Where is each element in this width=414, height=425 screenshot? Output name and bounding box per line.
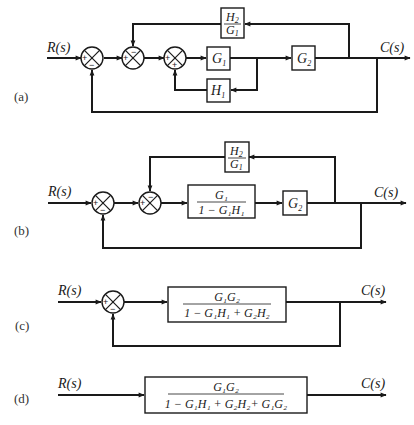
output-signal-label: C(s) [361, 376, 385, 392]
summing-junction: + − [122, 47, 144, 69]
diagram-c: (c) R(s) C(s) + − G₁G₂ 1 − G₁H₁ + G₂H₂ [15, 283, 386, 346]
summing-junction: + + [164, 47, 186, 70]
svg-text:G₁G₂: G₁G₂ [214, 290, 240, 304]
block-g2: G2 [283, 191, 307, 215]
summing-junction: + − [92, 192, 114, 215]
output-signal-label: C(s) [361, 283, 385, 299]
block-h1: H1 [207, 79, 230, 102]
svg-text:1 − G₁H₁ + G₂H₂+ G₁G₂: 1 − G₁H₁ + G₂H₂+ G₁G₂ [165, 397, 287, 411]
block-closed-loop: G₁G₂ 1 − G₁H₁ + G₂H₂+ G₁G₂ [145, 377, 307, 413]
block-g1: G1 [207, 47, 230, 70]
minus-sign: − [89, 60, 94, 70]
minus-sign: − [100, 205, 105, 215]
minus-sign: − [148, 192, 153, 202]
plus-sign: + [172, 60, 177, 70]
plus-sign: + [165, 53, 170, 63]
diagram-label-c: (c) [15, 318, 29, 333]
svg-text:G₁: G₁ [215, 188, 228, 202]
output-signal-label: C(s) [380, 40, 404, 56]
input-signal-label: R(s) [57, 283, 82, 299]
summing-junction: + − [139, 192, 161, 214]
block-inner-loop-reduced: G₁ 1 − G₁H₁ [188, 185, 255, 218]
block-h2-over-g1: H2 G1 [225, 142, 249, 172]
plus-sign: + [93, 198, 98, 208]
diagram-d: (d) R(s) C(s) G₁G₂ 1 − G₁H₁ + G₂H₂+ G₁G₂ [14, 376, 386, 413]
block-diagram-reduction: (a) R(s) C(s) + − + − [0, 0, 414, 425]
plus-sign: + [103, 297, 108, 307]
output-signal-label: C(s) [374, 185, 398, 201]
plus-sign: + [82, 53, 87, 63]
input-signal-label: R(s) [46, 40, 71, 56]
input-signal-label: R(s) [47, 184, 72, 200]
plus-sign: + [123, 53, 128, 63]
diagram-b: (b) R(s) C(s) + − + − G₁ 1 − G₁H₁ [14, 142, 406, 248]
h2-feedback-path [133, 24, 221, 46]
svg-text:1 − G₁H₁: 1 − G₁H₁ [199, 203, 245, 217]
summing-junction: + − [102, 291, 124, 314]
block-g2: G2 [292, 46, 315, 70]
diagram-label-d: (d) [14, 391, 29, 406]
h1-feedback-path [231, 58, 257, 90]
minus-sign: − [110, 304, 115, 314]
diagram-label-b: (b) [14, 223, 29, 238]
diagram-label-a: (a) [14, 89, 28, 104]
plus-sign: + [140, 198, 145, 208]
minus-sign: − [131, 47, 136, 57]
summing-junction: + − [81, 47, 103, 70]
block-h2-over-g1: H2 G1 [221, 8, 244, 38]
h1-feedback-path [175, 70, 207, 90]
svg-text:1 − G₁H₁ + G₂H₂: 1 − G₁H₁ + G₂H₂ [184, 306, 270, 320]
svg-text:G₁G₂: G₁G₂ [213, 380, 239, 394]
input-signal-label: R(s) [57, 376, 82, 392]
diagram-a: (a) R(s) C(s) + − + − [14, 8, 410, 112]
block-forward-path: G₁G₂ 1 − G₁H₁ + G₂H₂ [168, 287, 286, 322]
